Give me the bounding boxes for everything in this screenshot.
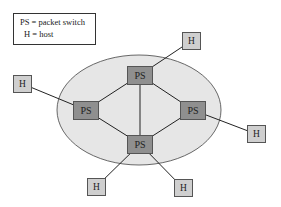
packet-switch-bottom: PS — [127, 135, 153, 154]
packet-switch-top: PS — [127, 66, 153, 85]
host-bottom-right: H — [174, 179, 193, 197]
host-right: H — [247, 125, 266, 143]
host-top-right: H — [182, 32, 201, 50]
legend-box: PS = packet switch H = host — [13, 13, 96, 45]
packet-switch-right: PS — [180, 101, 206, 120]
legend-ps: PS = packet switch — [20, 17, 95, 29]
legend-host: H = host — [20, 29, 95, 41]
packet-switch-left: PS — [73, 101, 99, 120]
host-bottom-left: H — [87, 178, 106, 196]
host-left: H — [13, 75, 32, 93]
